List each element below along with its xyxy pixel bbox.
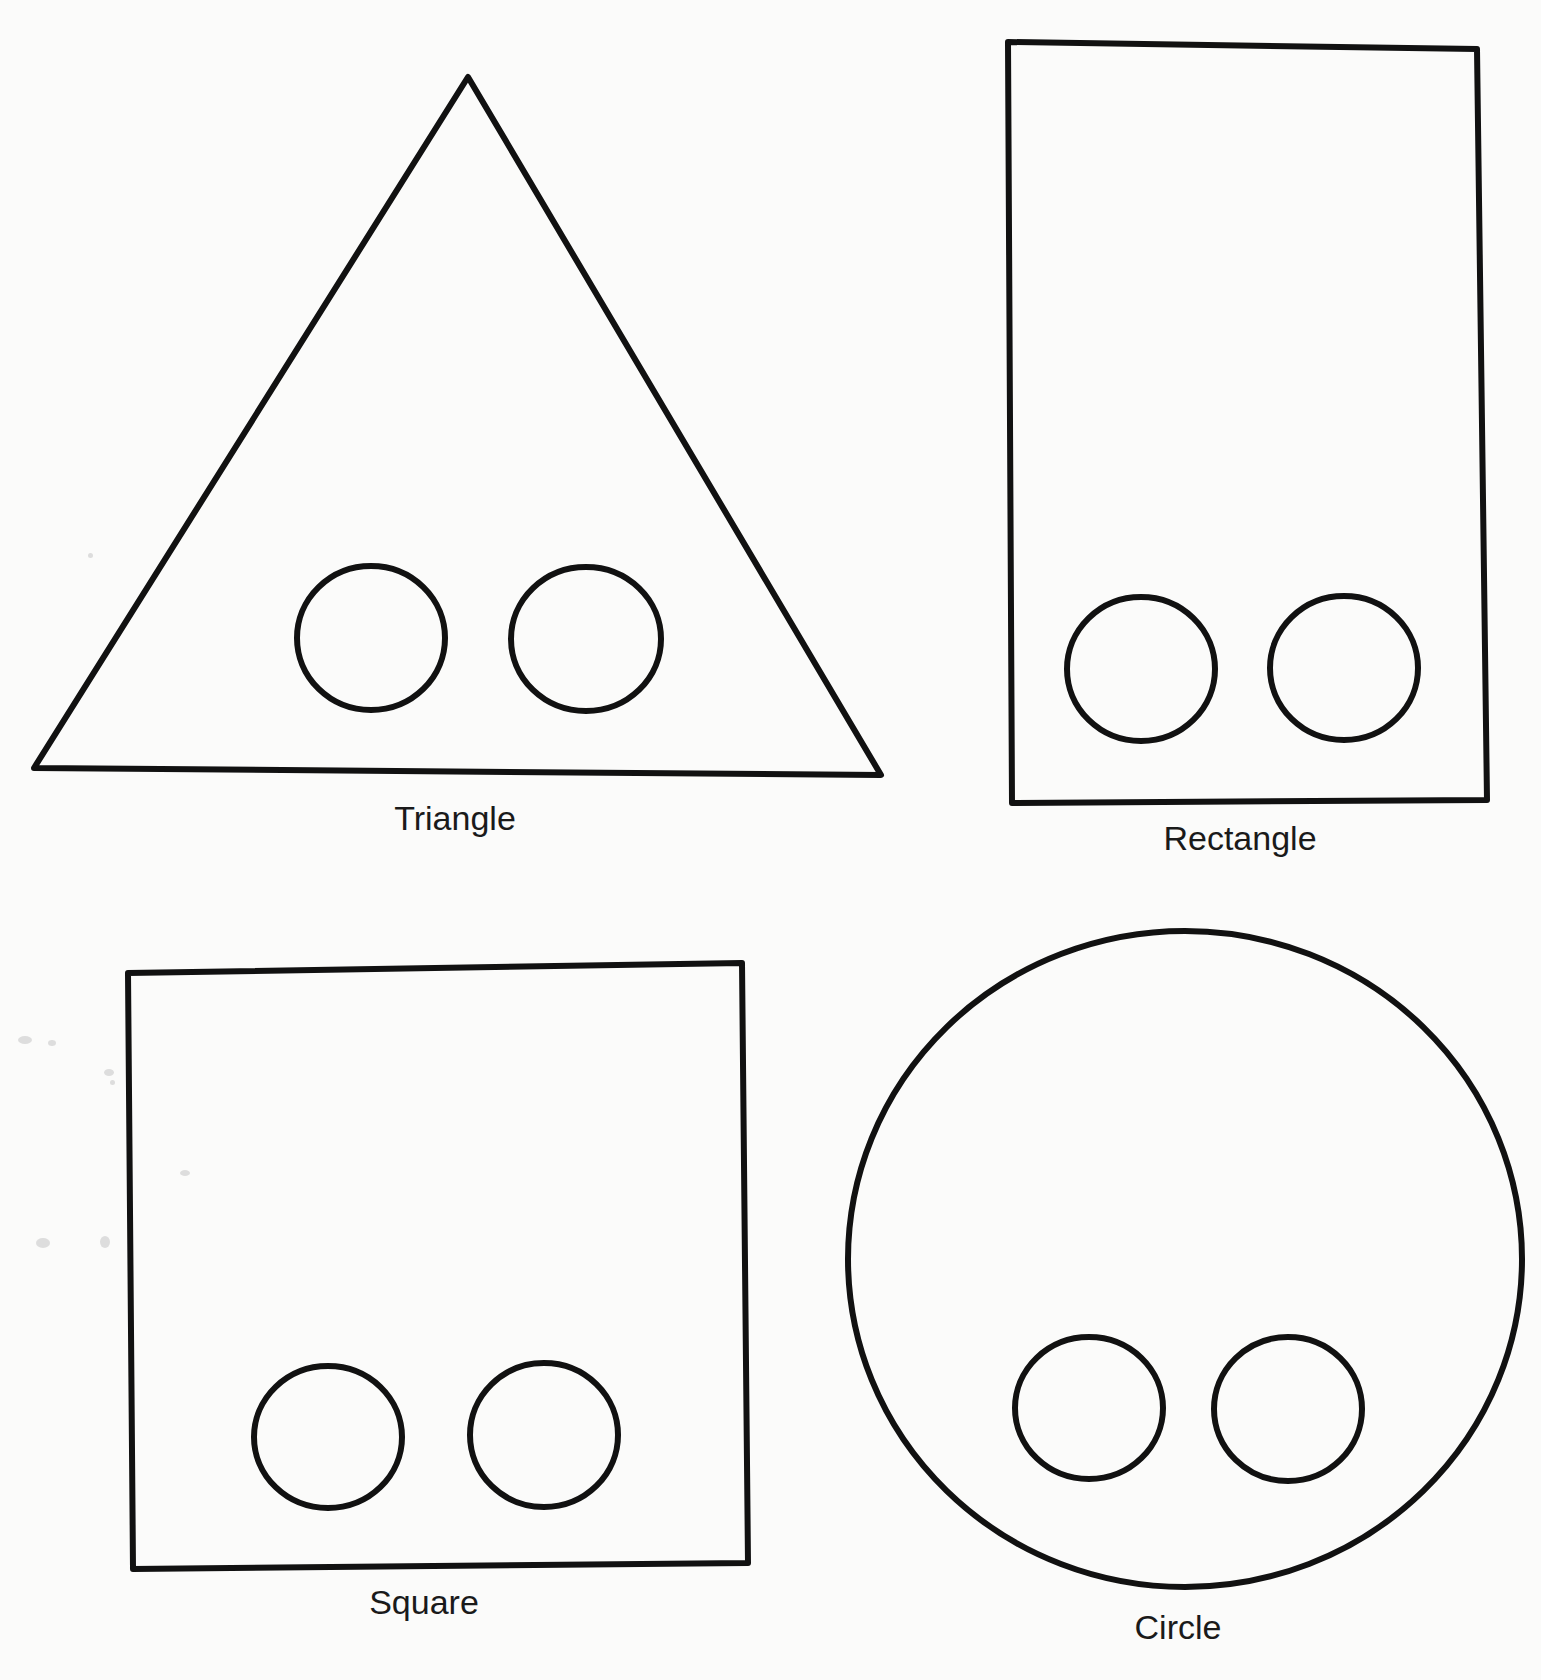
triangle-hole-left xyxy=(297,566,445,710)
circle-label: Circle xyxy=(1135,1610,1222,1644)
rectangle-label: Rectangle xyxy=(1163,821,1316,855)
paper-speck xyxy=(100,1236,110,1248)
paper-speck xyxy=(36,1238,50,1248)
square-hole-left xyxy=(254,1366,402,1508)
rectangle-hole-left xyxy=(1067,597,1215,741)
rectangle-shape xyxy=(1008,42,1487,803)
square-hole-right xyxy=(470,1363,618,1507)
square-outline xyxy=(128,963,748,1569)
triangle-label: Triangle xyxy=(394,801,516,835)
paper-speck xyxy=(18,1036,32,1044)
paper-speck xyxy=(104,1069,114,1076)
circle-hole-right xyxy=(1214,1337,1362,1481)
paper-speck xyxy=(180,1170,190,1176)
triangle-outline xyxy=(34,77,881,775)
square-label: Square xyxy=(369,1585,479,1619)
triangle-hole-right xyxy=(511,567,661,711)
square-shape xyxy=(128,963,748,1569)
circle-shape xyxy=(848,931,1522,1587)
paper-speck xyxy=(48,1040,56,1046)
circle-hole-left xyxy=(1015,1337,1163,1479)
paper-speck xyxy=(88,553,93,558)
rectangle-hole-right xyxy=(1270,596,1418,740)
worksheet-page: Triangle Rectangle Square Circle xyxy=(0,0,1541,1680)
circle-outline xyxy=(848,931,1522,1587)
paper-speck xyxy=(110,1080,115,1085)
triangle-shape xyxy=(34,77,881,775)
